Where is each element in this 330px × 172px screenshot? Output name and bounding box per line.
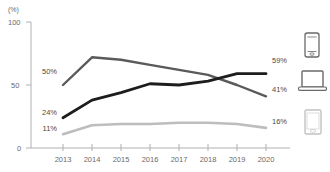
end-label-tablet: 16%: [272, 117, 287, 126]
series-line-tablet: [63, 123, 266, 134]
chart-canvas: (%) 100 50 0 2013 2014 2015 2016 2017 20…: [0, 0, 330, 172]
x-axis-label-2015: 2015: [113, 155, 130, 164]
smartphone-icon: [305, 33, 319, 57]
series-line-laptop: [63, 57, 266, 96]
start-label-smartphone: 24%: [42, 108, 57, 117]
start-label-laptop: 50%: [42, 67, 57, 76]
y-axis-tick-100: 100: [8, 18, 21, 27]
end-label-smartphone: 59%: [272, 56, 287, 65]
end-label-laptop: 41%: [272, 85, 287, 94]
x-axis-label-2014: 2014: [84, 155, 101, 164]
y-axis-tick-0: 0: [17, 144, 21, 153]
line-chart: (%) 100 50 0 2013 2014 2015 2016 2017 20…: [0, 0, 330, 172]
x-axis-label-2017: 2017: [171, 155, 188, 164]
series-line-smartphone: [63, 74, 266, 118]
laptop-icon: [299, 71, 327, 90]
x-axis-label-2020: 2020: [258, 155, 275, 164]
start-label-tablet: 11%: [43, 124, 58, 133]
y-axis-unit-label: (%): [8, 6, 19, 14]
x-axis-label-2019: 2019: [229, 155, 246, 164]
tablet-icon: [305, 110, 321, 134]
x-axis-label-2013: 2013: [55, 155, 72, 164]
y-axis-tick-50: 50: [11, 81, 19, 90]
x-axis-label-2016: 2016: [142, 155, 159, 164]
x-axis-label-2018: 2018: [200, 155, 217, 164]
